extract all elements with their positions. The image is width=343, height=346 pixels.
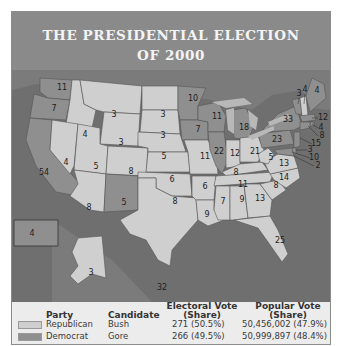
ev-NC: 14 (279, 173, 289, 182)
state-CO (106, 146, 148, 176)
ev-ME: 4 (314, 86, 319, 95)
map-title-line1: THE PRESIDENTIAL ELECTION (12, 25, 330, 45)
ev-HI: 4 (29, 229, 34, 238)
ev-AL: 9 (239, 195, 244, 204)
democrat-swatch (18, 333, 42, 341)
ev-NH: 4 (302, 85, 307, 94)
ev-OR: 7 (51, 104, 56, 113)
ev-LA: 9 (204, 210, 209, 219)
ev-AR: 6 (202, 182, 207, 191)
ev-WV: 5 (268, 153, 273, 162)
ev-SC: 8 (273, 181, 278, 190)
ev-KY: 8 (233, 168, 238, 177)
ev-AZ: 8 (86, 203, 91, 212)
state-IA (180, 120, 208, 140)
candidate-name: Bush (108, 319, 129, 329)
map-title-banner: THE PRESIDENTIAL ELECTION OF 2000 (12, 12, 330, 70)
state-NJ (294, 132, 300, 148)
party-name: Democrat (46, 331, 88, 341)
ev-MN: 10 (188, 94, 198, 103)
electoral-vote: 271 (50.5%) (172, 319, 225, 329)
election-map-figure: THE PRESIDENTIAL ELECTION OF 2000 (11, 11, 331, 334)
ev-CA: 54 (39, 168, 49, 177)
ev-SD: 3 (160, 131, 165, 140)
ev-TX: 32 (157, 283, 167, 292)
ev-AK: 3 (88, 268, 93, 277)
ev-IL: 22 (214, 147, 224, 156)
ev-WI: 11 (212, 112, 222, 121)
ev-MO: 11 (200, 152, 210, 161)
state-KS (146, 152, 190, 172)
ev-MI: 18 (239, 123, 249, 132)
legend-header-electoral: Electoral Vote (Share) (162, 302, 242, 320)
party-name: Republican (46, 319, 93, 329)
ev-MS: 7 (220, 197, 225, 206)
ev-NV: 4 (63, 158, 68, 167)
ev-NE: 5 (161, 152, 166, 161)
ev-NM: 5 (121, 198, 126, 207)
ev-VA: 13 (279, 159, 289, 168)
popular-vote: 50,999,897 (48.4%) (242, 331, 327, 341)
map-title-line2: OF 2000 (12, 45, 330, 65)
ev-IA: 7 (195, 125, 200, 134)
legend-header-popular: Popular Vote (Share) (248, 302, 328, 320)
ev-IN: 12 (230, 149, 240, 158)
ev-CO: 8 (128, 167, 133, 176)
ev-ID: 4 (82, 130, 87, 139)
ev-ND: 3 (160, 110, 165, 119)
ev-NY: 33 (283, 115, 293, 124)
ev-UT: 5 (93, 162, 98, 171)
electoral-vote: 266 (49.5%) (172, 331, 225, 341)
ev-PA: 23 (272, 135, 282, 144)
ev-TN: 11 (238, 180, 248, 189)
state-ND (142, 86, 178, 110)
ev-VT: 3 (296, 89, 301, 98)
ev-MA: 12 (318, 113, 328, 122)
ev-KS: 6 (169, 175, 174, 184)
ev-WY: 3 (118, 138, 123, 147)
us-electoral-map: 11 7 54 4 4 3 3 5 8 8 5 3 3 5 6 8 32 10 … (12, 70, 330, 302)
ev-OK: 8 (172, 197, 177, 206)
republican-swatch (18, 321, 42, 329)
ev-MT: 3 (111, 110, 116, 119)
ev-OH: 21 (250, 147, 260, 156)
state-HI-inset (14, 220, 58, 246)
ev-WA: 11 (57, 83, 67, 92)
ev-GA: 13 (255, 194, 265, 203)
popular-vote: 50,456,002 (47.9%) (242, 319, 327, 329)
candidate-name: Gore (108, 331, 128, 341)
ev-DC: 2 (315, 161, 320, 170)
ev-FL: 25 (275, 236, 285, 245)
legend-rows: Republican Bush 271 (50.5%) 50,456,002 (… (11, 323, 331, 345)
